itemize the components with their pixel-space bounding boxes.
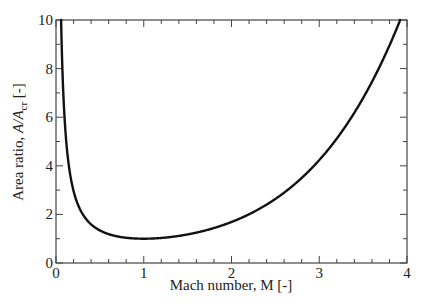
area-ratio-curve: [61, 20, 400, 239]
area-ratio-chart: 01234 0246810 Mach number, M [-] Area ra…: [0, 0, 427, 308]
x-tick-label: 0: [52, 265, 60, 281]
y-axis-label-italic: A/A: [10, 110, 26, 134]
y-tick-labels: 0246810: [38, 12, 54, 271]
y-axis-label-suffix: [-]: [10, 83, 26, 102]
axis-ticks: [56, 20, 407, 263]
y-tick-label: 8: [46, 61, 54, 77]
y-tick-label: 0: [46, 255, 54, 271]
x-tick-label: 3: [316, 265, 324, 281]
plot-frame: [56, 20, 407, 263]
y-axis-label-prefix: Area ratio,: [10, 133, 26, 201]
y-tick-label: 4: [46, 158, 54, 174]
y-tick-label: 6: [46, 109, 54, 125]
x-tick-label: 1: [140, 265, 148, 281]
y-tick-label: 2: [46, 206, 54, 222]
x-axis-label: Mach number, M [-]: [170, 277, 293, 293]
y-axis-label-subscript: cr: [17, 102, 29, 111]
y-axis-label: Area ratio, A/Acr [-]: [10, 83, 29, 201]
y-tick-label: 10: [38, 12, 53, 28]
x-tick-label: 4: [403, 265, 411, 281]
